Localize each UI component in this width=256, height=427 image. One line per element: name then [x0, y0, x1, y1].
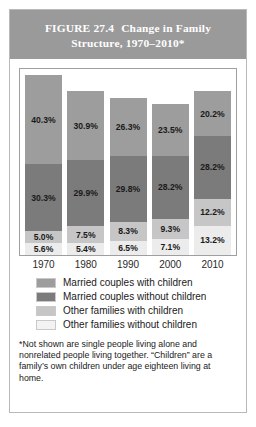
figure-number: FIGURE 27.4 — [45, 22, 114, 34]
figure-footnote: *Not shown are single people living alon… — [19, 339, 237, 384]
bar-segment: 12.2% — [194, 199, 231, 226]
bar-segment-value: 30.3% — [31, 193, 55, 203]
legend-item-label: Other families with children — [63, 305, 183, 317]
x-axis-tick-label: 1970 — [25, 259, 62, 270]
chart-legend: Married couples with childrenMarried cou… — [19, 277, 237, 331]
bar-segment: 6.5% — [110, 241, 147, 255]
figure-title-line1: Change in Family — [121, 22, 211, 34]
bar-segment-value: 20.2% — [200, 109, 224, 119]
stacked-bar-group: 40.3%30.3%5.0%5.6%30.9%29.9%7.5%5.4%26.3… — [25, 73, 231, 255]
bar-segment: 7.5% — [67, 226, 104, 243]
bar-column: 40.3%30.3%5.0%5.6% — [25, 73, 62, 255]
bar-segment-value: 5.6% — [34, 244, 54, 254]
figure-title-line2: Structure, 1970–2010* — [71, 37, 184, 49]
figure-card: FIGURE 27.4Change in Family Structure, 1… — [9, 9, 247, 413]
bar-segment: 13.2% — [194, 226, 231, 255]
legend-swatch-icon — [36, 278, 56, 288]
legend-item: Other families with children — [36, 305, 237, 317]
bar-segment: 5.0% — [25, 231, 62, 242]
bar-segment: 5.4% — [67, 243, 104, 255]
legend-swatch-icon — [36, 292, 56, 302]
x-axis-tick-label: 2000 — [152, 259, 189, 270]
bar-segment-value: 29.8% — [116, 184, 140, 194]
legend-item: Married couples without children — [36, 291, 237, 303]
bar-segment: 20.2% — [194, 91, 231, 136]
bar-segment-value: 12.2% — [200, 207, 224, 217]
legend-item-label: Other families without children — [63, 319, 197, 331]
legend-item: Other families without children — [36, 319, 237, 331]
legend-item: Married couples with children — [36, 277, 237, 289]
bar-segment: 8.3% — [110, 222, 147, 240]
x-axis-tick-label: 1990 — [110, 259, 147, 270]
bar-segment: 30.3% — [25, 164, 62, 231]
bar-segment: 26.3% — [110, 98, 147, 156]
bar-segment: 29.9% — [67, 160, 104, 226]
x-axis-tick-label: 1980 — [67, 259, 104, 270]
bar-segment: 23.5% — [152, 104, 189, 156]
bar-segment-value: 8.3% — [118, 226, 138, 236]
legend-swatch-icon — [36, 306, 56, 316]
bar-segment-value: 13.2% — [200, 235, 224, 245]
bar-segment: 29.8% — [110, 156, 147, 222]
bar-segment: 28.2% — [194, 136, 231, 199]
figure-body: 40.3%30.3%5.0%5.6%30.9%29.9%7.5%5.4%26.3… — [10, 59, 246, 384]
bar-segment-value: 7.5% — [76, 230, 96, 240]
bar-segment-value: 26.3% — [116, 122, 140, 132]
chart-plot-area: 40.3%30.3%5.0%5.6%30.9%29.9%7.5%5.4%26.3… — [19, 68, 237, 256]
bar-segment: 7.1% — [152, 239, 189, 255]
bar-segment-value: 9.3% — [160, 224, 180, 234]
bar-column: 20.2%28.2%12.2%13.2% — [194, 73, 231, 255]
x-axis-labels: 19701980199020002010 — [19, 256, 237, 270]
bar-segment-value: 7.1% — [160, 242, 180, 252]
bar-segment-value: 5.4% — [76, 244, 96, 254]
bar-segment-value: 5.0% — [34, 232, 54, 242]
bar-segment-value: 23.5% — [158, 125, 182, 135]
bar-segment-value: 30.9% — [74, 121, 98, 131]
bar-column: 30.9%29.9%7.5%5.4% — [67, 73, 104, 255]
bar-segment-value: 6.5% — [118, 243, 138, 253]
x-axis-tick-label: 2010 — [194, 259, 231, 270]
bar-column: 26.3%29.8%8.3%6.5% — [110, 73, 147, 255]
bar-segment-value: 40.3% — [31, 115, 55, 125]
bar-segment: 28.2% — [152, 156, 189, 219]
bar-segment-value: 28.2% — [200, 162, 224, 172]
legend-item-label: Married couples with children — [63, 277, 193, 289]
bar-segment-value: 28.2% — [158, 182, 182, 192]
bar-segment-value: 29.9% — [74, 188, 98, 198]
bar-segment: 5.6% — [25, 243, 62, 255]
bar-segment: 30.9% — [67, 91, 104, 160]
bar-segment: 9.3% — [152, 219, 189, 240]
legend-swatch-icon — [36, 320, 56, 330]
bar-column: 23.5%28.2%9.3%7.1% — [152, 73, 189, 255]
legend-item-label: Married couples without children — [63, 291, 206, 303]
figure-title-band: FIGURE 27.4Change in Family Structure, 1… — [10, 10, 246, 59]
bar-segment: 40.3% — [25, 75, 62, 164]
